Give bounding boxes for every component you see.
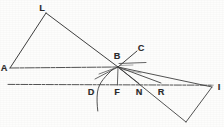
tick-near-B xyxy=(120,65,133,66)
segment-B-C xyxy=(118,51,137,67)
segment-B-F xyxy=(117,68,118,85)
baseline xyxy=(8,84,213,85)
segment-I-T xyxy=(186,87,212,122)
point-label-A: A xyxy=(1,64,8,73)
figure-canvas xyxy=(0,0,224,127)
segment-A-B xyxy=(10,67,118,68)
ray-diagram-figure: L A C B D F N R I xyxy=(0,0,224,127)
segment-B-D xyxy=(95,67,118,79)
segment-B-T xyxy=(118,67,186,122)
segment-L-B xyxy=(46,13,118,67)
segment-A-L xyxy=(10,13,46,68)
point-label-C: C xyxy=(138,44,145,53)
point-label-D: D xyxy=(88,88,95,97)
point-label-I: I xyxy=(218,83,221,92)
refraction-arc xyxy=(97,69,113,111)
point-label-F: F xyxy=(114,88,120,97)
point-label-N: N xyxy=(136,88,143,97)
point-label-R: R xyxy=(158,88,165,97)
segment-B-I xyxy=(118,67,212,87)
point-label-B: B xyxy=(114,52,121,61)
point-label-L: L xyxy=(39,4,45,13)
